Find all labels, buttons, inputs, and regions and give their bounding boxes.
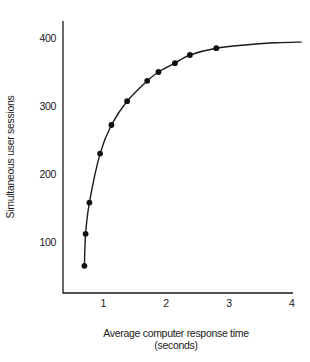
data-point-marker [172, 60, 178, 66]
data-point-marker [187, 52, 193, 58]
data-point-marker [87, 200, 93, 206]
data-point-marker [124, 98, 130, 104]
data-point-marker [83, 231, 89, 237]
data-point-marker [156, 69, 162, 75]
x-axis-title: Average computer response time [103, 327, 249, 339]
y-tick-label: 200 [39, 168, 56, 180]
chart-figure: 1002003004001234 Simultaneous user sessi… [0, 0, 310, 362]
data-point-marker [109, 122, 115, 128]
y-axis-title: Simultaneous user sessions [4, 95, 16, 218]
y-tick-label: 300 [39, 100, 56, 112]
sessions-vs-response-time-chart: 1002003004001234 Simultaneous user sessi… [0, 0, 310, 362]
x-tick-label: 4 [289, 297, 295, 309]
x-tick-label: 3 [226, 297, 232, 309]
x-tick-label: 1 [100, 297, 106, 309]
y-tick-label: 100 [39, 236, 56, 248]
data-point-marker [97, 151, 103, 157]
data-point-marker [144, 78, 150, 84]
curve-line [84, 42, 301, 266]
data-point-marker [213, 45, 219, 51]
x-tick-label: 2 [163, 297, 169, 309]
x-axis-units: (seconds) [154, 339, 197, 351]
data-point-marker [82, 263, 88, 269]
axes: 1002003004001234 [39, 21, 295, 309]
y-tick-label: 400 [39, 32, 56, 44]
